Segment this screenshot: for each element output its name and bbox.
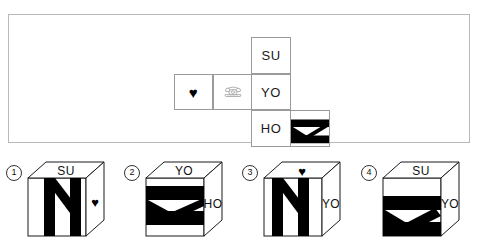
answer-option-3[interactable]: 3 ♥ YO [238,150,356,245]
answer-option-4[interactable]: 4 SU YO [357,150,475,245]
option-2-top-label: YO [175,164,193,178]
option-2-right-label: HO [204,197,223,211]
net-face-ho: HO [251,110,291,147]
black-zigzag-icon [291,111,329,146]
option-4-cube: SU YO [377,156,473,242]
net-face-ho-label: HO [261,121,282,136]
heart-icon: ♥ [189,85,198,100]
option-1-right-heart-icon: ♥ [91,195,99,210]
net-face-yo-label: YO [261,85,281,100]
net-face-su-label: SU [261,48,280,63]
answer-options-row: 1 [0,150,477,245]
option-4-right-label: YO [441,197,459,211]
net-face-su: SU [251,37,291,74]
option-4-top-label: SU [412,164,429,178]
net-face-yo: YO [251,74,291,110]
puzzle-canvas: SU ♥ [0,0,477,245]
net-face-heart: ♥ [174,74,213,110]
telephone-icon [223,84,243,100]
option-1-cube: SU ♥ [22,156,118,242]
option-3-right-label: YO [322,197,340,211]
option-3-cube: ♥ YO [258,156,354,242]
option-1-number: 1 [6,165,22,181]
cube-net-panel: SU ♥ [8,14,470,143]
option-4-number: 4 [361,165,377,181]
option-3-number: 3 [242,165,258,181]
answer-option-1[interactable]: 1 [2,150,120,245]
net-face-telephone [213,74,252,110]
option-2-cube: YO HO [140,156,236,242]
net-face-zigzag [290,110,330,147]
option-3-top-heart-icon: ♥ [298,164,306,179]
option-1-top-label: SU [57,164,74,178]
option-2-number: 2 [124,165,140,181]
answer-option-2[interactable]: 2 YO HO [120,150,238,245]
